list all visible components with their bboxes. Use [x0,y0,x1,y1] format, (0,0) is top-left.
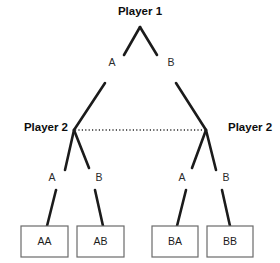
outcome-label-ab: AB [93,235,107,247]
action-label-root-action-a: A [108,56,115,68]
tree-edge-b-stem-to-ab [95,190,103,226]
action-label-group: ABABAB [48,56,229,183]
tree-edge-b-stem-to-bb [222,190,230,226]
tree-edge-root-to-b-upper [140,27,157,55]
outcome-node-aa: AA [21,226,68,257]
tree-edge-a-stem-to-ba [177,190,186,226]
tree-edge-right-node-to-b [206,130,216,170]
tree-edge-a-to-player2-left [74,83,105,130]
tree-edge-root-to-a-upper [124,27,140,55]
tree-edge-right-node-to-a [192,130,206,168]
outcome-label-bb: BB [223,235,237,247]
player-label-player2-left: Player 2 [24,121,68,133]
action-label-left-action-a: A [48,171,55,183]
outcome-box-group: AAABBABB [21,226,253,257]
tree-edge-a-stem-to-aa [47,190,56,226]
outcome-label-aa: AA [37,235,51,247]
player-label-player2-right: Player 2 [228,121,272,133]
tree-edge-b-to-player2-right [176,83,206,130]
player-label-player1-root: Player 1 [118,5,163,17]
outcome-node-ba: BA [152,226,198,257]
action-label-left-action-b: B [95,171,102,183]
tree-edge-left-node-to-a [65,130,74,170]
action-label-right-action-b: B [222,171,229,183]
action-label-right-action-a: A [178,171,185,183]
outcome-node-ab: AB [77,226,124,257]
tree-edge-left-node-to-b [74,130,89,168]
outcome-label-ba: BA [168,235,182,247]
game-tree-canvas: AAABBABB ABABAB Player 1Player 2Player 2 [0,0,280,263]
player-label-group: Player 1Player 2Player 2 [24,5,272,133]
game-tree-diagram: AAABBABB ABABAB Player 1Player 2Player 2 [0,0,280,263]
action-label-root-action-b: B [167,56,174,68]
edge-group [47,27,230,226]
outcome-node-bb: BB [207,226,253,257]
